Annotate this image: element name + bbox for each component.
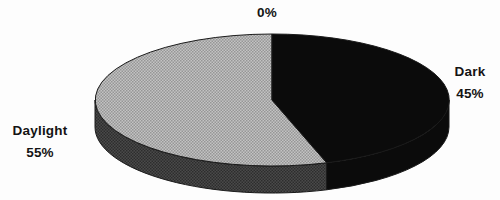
pie-3d-graphic: [0, 0, 500, 200]
slice-label-daylight-value: 55%: [13, 142, 68, 164]
slice-label-zero-percent: 0%: [257, 5, 277, 21]
pie-chart-figure: 0% Dark 45% Daylight 55%: [0, 0, 500, 200]
slice-label-dark-name: Dark: [455, 61, 486, 83]
slice-label-daylight-name: Daylight: [13, 120, 68, 142]
slice-label-dark: Dark 45%: [455, 61, 486, 105]
slice-label-dark-value: 45%: [455, 83, 486, 105]
slice-label-daylight: Daylight 55%: [13, 120, 68, 164]
